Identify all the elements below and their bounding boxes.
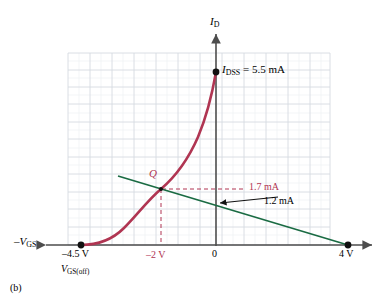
plot-canvas: [0, 0, 391, 304]
vgs-q-label: –2 V: [146, 250, 166, 260]
id-q-label: 1.7 mA: [249, 182, 279, 192]
y-axis-label: ID: [210, 16, 219, 29]
idss-annotation: IDSS = 5.5 mA: [222, 64, 285, 77]
point-q: [159, 187, 163, 191]
figure-caption: (b): [10, 283, 22, 293]
idss-value: = 5.5 mA: [240, 63, 285, 75]
q-point-symbol: Q: [149, 167, 157, 179]
vgs-off-value-label: –4.5 V: [62, 249, 89, 259]
q-point-label: Q: [149, 168, 157, 179]
axis-lines: [46, 34, 372, 246]
origin-label: 0: [212, 249, 217, 259]
y-axis-label-subscript: D: [214, 20, 220, 29]
x-axis-label: –VGS: [14, 236, 36, 249]
vgs-off-subscript: GS(off): [67, 268, 89, 276]
idss-subscript: DSS: [226, 68, 241, 77]
x-axis-label-subscript: GS: [26, 240, 36, 249]
vgs-off-symbol-label: VGS(off): [61, 264, 89, 276]
x-intercept-label: 4 V: [339, 249, 354, 259]
x-axis-label-symbol: –V: [14, 235, 26, 247]
point-idss: [213, 69, 220, 76]
chart-grid: [68, 53, 330, 245]
jfet-transfer-characteristic-figure: ID IDSS = 5.5 mA –VGS –4.5 V VGS(off) –2…: [0, 0, 391, 304]
id-zero-label: 1.2 mA: [264, 196, 294, 206]
